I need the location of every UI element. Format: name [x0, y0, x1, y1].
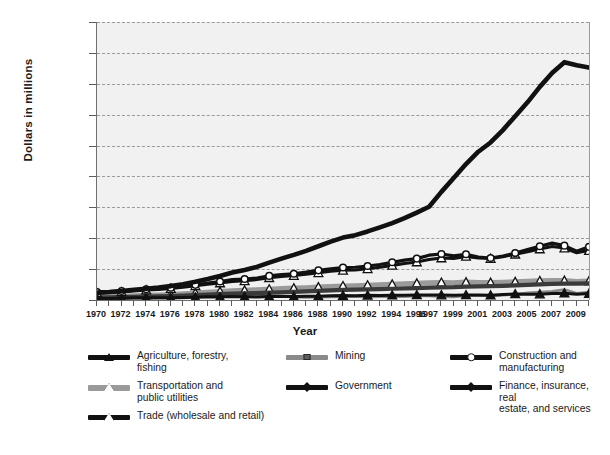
chart-root: Dollars in millions 0200,000400,000600,0… — [0, 0, 610, 455]
x-tick-mark — [281, 300, 282, 306]
legend-swatch — [88, 381, 130, 393]
data-point-marker — [217, 278, 224, 285]
x-tick-mark — [527, 300, 528, 306]
x-tick-label: 2003 — [492, 309, 512, 319]
legend-label: Construction andmanufacturing — [499, 350, 577, 373]
legend-label: Finance, insurance, realestate, and serv… — [499, 380, 603, 415]
x-tick-mark — [440, 300, 441, 306]
data-point-marker — [512, 250, 519, 257]
x-tick-mark — [514, 300, 515, 306]
x-tick-mark — [268, 300, 269, 306]
legend-swatch — [450, 351, 492, 363]
legend-label-line2: public utilities — [137, 392, 223, 404]
x-tick-mark — [170, 300, 171, 306]
legend-item[interactable]: Government — [286, 380, 392, 393]
legend-item[interactable]: Finance, insurance, realestate, and serv… — [450, 380, 603, 415]
data-point-marker — [241, 276, 248, 283]
x-tick-mark — [194, 300, 195, 306]
x-tick-mark — [428, 300, 429, 306]
legend-label: Government — [335, 380, 392, 392]
x-tick-mark — [465, 300, 466, 306]
y-tick-mark — [89, 176, 96, 177]
x-tick-mark — [563, 300, 564, 306]
x-tick-label: 2009 — [566, 309, 586, 319]
x-tick-mark — [145, 300, 146, 306]
x-tick-mark — [293, 300, 294, 306]
y-tick-mark — [89, 146, 96, 147]
x-tick-label: 1990 — [332, 309, 352, 319]
x-tick-mark — [256, 300, 257, 306]
data-point-marker — [561, 242, 568, 249]
legend-label-line1: Finance, insurance, real — [499, 380, 603, 403]
data-point-marker — [487, 255, 494, 262]
x-tick-label: 1972 — [111, 309, 131, 319]
x-tick-label: 1982 — [234, 309, 254, 319]
x-tick-mark — [108, 300, 109, 306]
x-tick-mark — [342, 300, 343, 306]
y-tick-mark — [89, 84, 96, 85]
legend-marker-diamond-filled — [302, 382, 312, 392]
chart-legend: Agriculture, forestry,fishingTransportat… — [88, 350, 603, 450]
x-tick-mark — [158, 300, 159, 306]
x-tick-label: 2001 — [467, 309, 487, 319]
x-tick-label: 1978 — [184, 309, 204, 319]
y-tick-mark — [89, 207, 96, 208]
legend-label-line2: fishing — [137, 362, 228, 374]
legend-swatch — [88, 351, 130, 363]
x-tick-mark — [416, 300, 417, 306]
x-axis-title: Year — [0, 325, 610, 337]
legend-label: Transportation andpublic utilities — [137, 380, 223, 403]
x-tick-label: 1999 — [443, 309, 463, 319]
y-tick-mark — [89, 238, 96, 239]
data-point-marker — [438, 251, 445, 258]
x-tick-mark — [367, 300, 368, 306]
legend-item[interactable]: Agriculture, forestry,fishing — [88, 350, 228, 373]
x-tick-label: 1997 — [418, 309, 438, 319]
y-axis-title: Dollars in millions — [22, 30, 34, 190]
data-point-marker — [291, 270, 298, 277]
x-tick-mark — [502, 300, 503, 306]
x-tick-mark — [133, 300, 134, 306]
legend-marker-square-gray — [304, 354, 311, 360]
legend-swatch — [88, 411, 130, 423]
x-tick-mark — [305, 300, 306, 306]
data-point-marker — [389, 259, 396, 266]
x-tick-mark — [182, 300, 183, 306]
data-point-marker — [266, 273, 273, 280]
x-tick-mark — [231, 300, 232, 306]
x-tick-label: 1984 — [258, 309, 278, 319]
x-tick-mark — [244, 300, 245, 306]
legend-item[interactable]: Construction andmanufacturing — [450, 350, 577, 373]
x-tick-mark — [404, 300, 405, 306]
x-tick-mark — [551, 300, 552, 306]
x-tick-label: 1992 — [357, 309, 377, 319]
y-tick-mark — [89, 115, 96, 116]
x-tick-mark — [354, 300, 355, 306]
data-point-marker — [364, 263, 371, 270]
data-point-marker — [414, 255, 421, 262]
x-tick-mark — [588, 300, 589, 306]
legend-swatch — [286, 351, 328, 363]
x-tick-mark — [330, 300, 331, 306]
legend-label: Agriculture, forestry,fishing — [137, 350, 228, 373]
data-point-marker — [586, 244, 589, 251]
legend-label-line2: manufacturing — [499, 362, 577, 374]
x-tick-mark — [477, 300, 478, 306]
legend-label-line1: Mining — [335, 350, 365, 362]
legend-label-line1: Trade (wholesale and retail) — [137, 410, 264, 422]
y-tick-mark — [89, 300, 96, 301]
legend-marker-triangle-open — [104, 383, 114, 391]
x-tick-mark — [317, 300, 318, 306]
legend-label-line1: Government — [335, 380, 392, 392]
plot-inner — [97, 22, 589, 300]
legend-item[interactable]: Transportation andpublic utilities — [88, 380, 223, 403]
legend-item[interactable]: Mining — [286, 350, 365, 363]
x-tick-mark — [576, 300, 577, 306]
legend-swatch — [286, 381, 328, 393]
legend-label-line1: Transportation and — [137, 380, 223, 392]
x-tick-label: 2005 — [516, 309, 536, 319]
legend-label: Mining — [335, 350, 365, 362]
legend-item[interactable]: Trade (wholesale and retail) — [88, 410, 264, 423]
legend-marker-diamond-filled — [466, 382, 476, 392]
data-point-marker — [463, 251, 470, 258]
